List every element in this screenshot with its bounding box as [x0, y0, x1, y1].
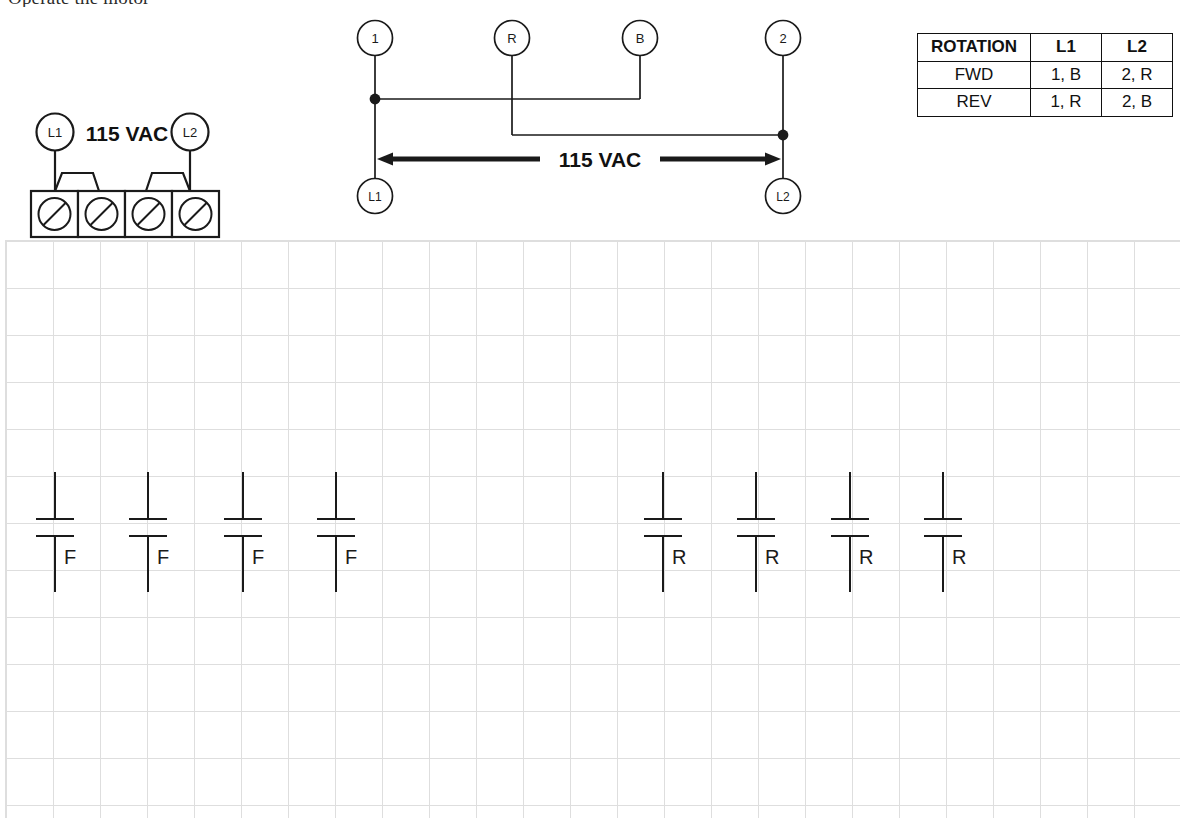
rotation-cell-fwd-l2: 2, R: [1102, 61, 1173, 89]
graph-paper-grid: [5, 240, 1180, 818]
contact-label-r-3: R: [859, 546, 873, 568]
clipped-heading-text: Operate the motor: [8, 0, 768, 7]
contact-label-r-1: R: [672, 546, 686, 568]
rotation-table-header-l2: L2: [1102, 34, 1173, 62]
wiring-terminal-2: 2: [766, 21, 801, 56]
supply-l2-label: L2: [183, 125, 197, 140]
wiring-terminal-b-label: B: [636, 31, 645, 46]
rotation-cell-fwd: FWD: [918, 61, 1031, 89]
wiring-terminal-l2-label: L2: [776, 190, 790, 204]
wiring-terminal-l2: L2: [766, 179, 801, 214]
wiring-terminal-1: 1: [358, 21, 393, 56]
wiring-voltage-label: 115 VAC: [559, 148, 642, 171]
terminal-screw-3: [133, 198, 165, 230]
supply-l1-terminal: L1: [37, 114, 74, 192]
terminal-screw-2: [86, 198, 118, 230]
supply-l1-label: L1: [48, 125, 62, 140]
terminal-screw-1: [39, 198, 71, 230]
rotation-table: ROTATION L1 L2 FWD 1, B 2, R REV 1, R 2,…: [917, 33, 1173, 117]
contact-label-r-4: R: [952, 546, 966, 568]
rotation-table-header-rotation: ROTATION: [918, 34, 1031, 62]
contact-label-f-4: F: [345, 546, 357, 568]
wiring-terminal-r: R: [495, 21, 530, 56]
rotation-table-header-row: ROTATION L1 L2: [918, 34, 1173, 62]
contact-label-f-2: F: [157, 546, 169, 568]
table-row: REV 1, R 2, B: [918, 89, 1173, 117]
contact-label-r-2: R: [765, 546, 779, 568]
supply-l2-terminal: L2: [172, 114, 209, 192]
rotation-cell-rev-l1: 1, R: [1031, 89, 1102, 117]
contact-label-f-1: F: [64, 546, 76, 568]
wiring-terminal-2-label: 2: [779, 31, 786, 46]
contact-label-f-3: F: [252, 546, 264, 568]
junction-dot-l1: [370, 94, 381, 105]
wiring-terminal-r-label: R: [507, 31, 516, 46]
rotation-cell-fwd-l1: 1, B: [1031, 61, 1102, 89]
wiring-terminal-l1: L1: [358, 179, 393, 214]
diagram-page: Operate the motor L1 115 VAC L2: [0, 0, 1182, 818]
supply-voltage-label: 115 VAC: [86, 122, 169, 145]
wiring-terminal-l1-label: L1: [368, 190, 382, 204]
jumper-wire-left: [55, 173, 99, 191]
rotation-table-header-l1: L1: [1031, 34, 1102, 62]
wiring-terminal-b: B: [623, 21, 658, 56]
jumper-wire-right: [146, 173, 190, 191]
terminal-screw-4: [180, 198, 212, 230]
table-row: FWD 1, B 2, R: [918, 61, 1173, 89]
rotation-cell-rev: REV: [918, 89, 1031, 117]
rotation-cell-rev-l2: 2, B: [1102, 89, 1173, 117]
wiring-terminal-1-label: 1: [371, 31, 378, 46]
junction-dot-l2: [778, 130, 789, 141]
